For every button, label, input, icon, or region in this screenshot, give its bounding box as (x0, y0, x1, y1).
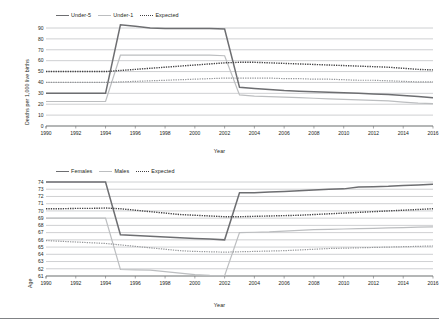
x-tick-label: 2004 (249, 130, 260, 136)
y-tick-label: 62 (38, 266, 44, 272)
chart-life-expectancy: Females Males Expected Age 6162636465666… (0, 160, 439, 310)
legend-item-under1: Under-1 (98, 12, 133, 18)
legend-label-under1: Under-1 (113, 12, 133, 18)
x-tick-label: 1996 (130, 280, 141, 286)
x-tick-label: 2014 (398, 280, 409, 286)
legend-item-expected: Expected (136, 168, 174, 174)
x-tick-label: 2010 (338, 130, 349, 136)
x-tick-label: 1990 (40, 130, 51, 136)
footer-divider (0, 318, 439, 319)
y-tick-label: 0 (41, 123, 44, 129)
legend-item-expected: Expected (140, 12, 178, 18)
legend-label-males: Males (114, 168, 129, 174)
x-tick-label: 2002 (219, 130, 230, 136)
legend-label-expected: Expected (151, 168, 174, 174)
y-tick-label: 90 (38, 25, 44, 31)
y-tick-label: 50 (38, 68, 44, 74)
x-tick-label: 1994 (100, 130, 111, 136)
plot-area-top: 0102030405060708090199019921994199619982… (0, 22, 439, 140)
x-tick-label: 1992 (70, 280, 81, 286)
x-tick-label: 1992 (70, 130, 81, 136)
x-tick-label: 2012 (368, 130, 379, 136)
x-tick-label: 1998 (160, 280, 171, 286)
y-tick-label: 40 (38, 79, 44, 85)
x-tick-label: 1994 (100, 280, 111, 286)
x-tick-label: 2000 (189, 280, 200, 286)
y-tick-label: 64 (38, 251, 44, 257)
legend-swatch-solid-dark-icon (56, 15, 69, 16)
legend-swatch-solid-dark-icon (56, 171, 69, 172)
series-line-expected-under-5 (46, 62, 433, 71)
x-tick-label: 2010 (338, 280, 349, 286)
x-tick-label: 1998 (160, 130, 171, 136)
y-tick-label: 10 (38, 112, 44, 118)
x-tick-label: 2008 (308, 130, 319, 136)
legend-bottom: Females Males Expected (56, 168, 175, 174)
series-line-expected-under-1 (46, 78, 433, 82)
y-tick-label: 70 (38, 208, 44, 214)
y-tick-label: 63 (38, 258, 44, 264)
series-line-expected-females (46, 208, 433, 217)
legend-item-females: Females (56, 168, 92, 174)
x-tick-label: 1996 (130, 130, 141, 136)
x-tick-label: 1990 (40, 280, 51, 286)
x-tick-label: 2016 (427, 280, 438, 286)
series-line-under-5 (46, 25, 433, 98)
legend-top: Under-5 Under-1 Expected (56, 12, 179, 18)
plot-svg-bottom: 6162636465666768697071727374199019921994… (0, 178, 439, 290)
y-tick-label: 71 (38, 200, 44, 206)
y-tick-label: 65 (38, 244, 44, 250)
legend-item-under5: Under-5 (56, 12, 91, 18)
x-tick-label: 2016 (427, 130, 438, 136)
plot-area-bottom: 6162636465666768697071727374199019921994… (0, 178, 439, 290)
legend-label-expected: Expected (155, 12, 178, 18)
legend-label-under5: Under-5 (71, 12, 91, 18)
x-tick-label: 2008 (308, 280, 319, 286)
x-tick-label: 2012 (368, 280, 379, 286)
y-tick-label: 74 (38, 179, 44, 185)
series-line-under-1 (46, 55, 433, 103)
chart-child-mortality: Under-5 Under-1 Expected Deaths per 1,00… (0, 0, 439, 160)
x-axis-label-bottom: Year (0, 302, 439, 308)
y-tick-label: 66 (38, 237, 44, 243)
x-tick-label: 2014 (398, 130, 409, 136)
plot-svg-top: 0102030405060708090199019921994199619982… (0, 22, 439, 140)
y-tick-label: 70 (38, 47, 44, 53)
legend-swatch-solid-light-icon (99, 171, 112, 172)
y-tick-label: 61 (38, 273, 44, 279)
x-axis-label-top: Year (0, 148, 439, 154)
x-tick-label: 2006 (279, 130, 290, 136)
y-tick-label: 72 (38, 193, 44, 199)
y-tick-label: 69 (38, 215, 44, 221)
legend-swatch-solid-light-icon (98, 15, 111, 16)
figure-page: Under-5 Under-1 Expected Deaths per 1,00… (0, 0, 439, 327)
y-tick-label: 80 (38, 36, 44, 42)
series-line-expected-males (46, 241, 433, 253)
y-tick-label: 68 (38, 222, 44, 228)
x-tick-label: 2006 (279, 280, 290, 286)
x-tick-label: 2000 (189, 130, 200, 136)
legend-label-females: Females (71, 168, 92, 174)
y-tick-label: 30 (38, 90, 44, 96)
legend-swatch-dotted-icon (136, 171, 149, 172)
y-tick-label: 73 (38, 186, 44, 192)
legend-item-males: Males (99, 168, 129, 174)
y-tick-label: 20 (38, 101, 44, 107)
legend-swatch-dotted-icon (140, 15, 153, 16)
y-tick-label: 60 (38, 57, 44, 63)
x-tick-label: 2002 (219, 280, 230, 286)
x-tick-label: 2004 (249, 280, 260, 286)
y-tick-label: 67 (38, 229, 44, 235)
